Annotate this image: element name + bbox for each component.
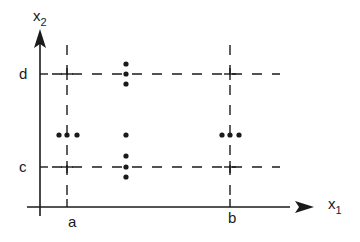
tick-label-a: a (68, 214, 76, 229)
point-clusters (56, 61, 241, 179)
x-axis-label-main: x (328, 195, 336, 212)
cluster-mid-c (123, 153, 128, 179)
y-axis-label-subscript: 2 (41, 16, 47, 28)
tick-label-c: c (19, 159, 27, 174)
cluster-mid-d (123, 61, 128, 86)
cluster-a-mid (56, 132, 79, 137)
cluster-center (123, 132, 128, 137)
x-axis-label-subscript: 1 (336, 204, 342, 216)
tick-label-d: d (19, 66, 27, 81)
axis-ticks (40, 74, 230, 207)
diagram-canvas (0, 0, 360, 242)
tick-label-b: b (228, 210, 236, 225)
x-axis-label: x1 (328, 196, 342, 211)
y-axis-label: x2 (33, 8, 47, 23)
x-axis-arrowhead-icon (295, 201, 314, 213)
intersection-crosses (61, 68, 236, 173)
cluster-b-mid (219, 132, 241, 137)
y-axis-label-main: x (33, 7, 41, 24)
dashed-grid (52, 45, 280, 200)
